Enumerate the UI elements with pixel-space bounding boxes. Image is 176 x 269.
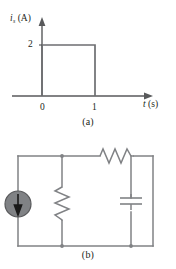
figure-container: is (A) t (s) 2 0 1 (a) <box>0 0 176 269</box>
y-axis-arrowhead <box>39 17 46 26</box>
y-axis-label-unit: (A) <box>15 13 31 23</box>
x-tick-label-1: 1 <box>92 103 97 113</box>
capacitor-symbol <box>120 198 142 204</box>
resistor-6ohm-symbol <box>100 149 134 163</box>
pulse-waveform <box>42 45 95 96</box>
y-tick-label-2: 2 <box>28 40 33 50</box>
caption-b: (b) <box>0 249 176 260</box>
junction-dots <box>60 154 133 248</box>
y-axis-label: is (A) <box>10 14 31 25</box>
x-axis-label-unit: (s) <box>146 99 158 109</box>
x-axis-label: t (s) <box>143 100 158 110</box>
caption-a: (a) <box>0 116 176 127</box>
x-tick-label-0: 0 <box>40 103 45 113</box>
panel-a-waveform: is (A) t (s) 2 0 1 <box>0 0 176 134</box>
resistor-4ohm-symbol <box>55 187 69 221</box>
